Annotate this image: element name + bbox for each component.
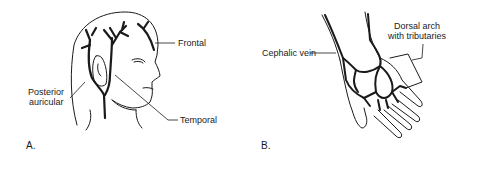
label-dorsal-arch-line2: with tributaries: [388, 31, 446, 41]
head-illustration: [0, 0, 240, 172]
hand-illustration: [240, 0, 478, 172]
panel-b-hand-veins: Cephalic vein Dorsal arch with tributari…: [240, 0, 478, 172]
label-frontal: Frontal: [178, 38, 206, 48]
label-dorsal-arch-line1: Dorsal arch: [394, 21, 440, 31]
panel-letter-a: A.: [26, 140, 35, 151]
label-posterior-auricular-line1: Posterior: [28, 87, 64, 97]
label-temporal: Temporal: [180, 115, 217, 125]
label-posterior-auricular-line2: auricular: [29, 97, 64, 107]
panel-letter-b: B.: [261, 140, 270, 151]
label-cephalic-vein: Cephalic vein: [262, 48, 316, 58]
panel-a-head-veins: Frontal Posterior auricular Temporal A.: [0, 0, 240, 172]
